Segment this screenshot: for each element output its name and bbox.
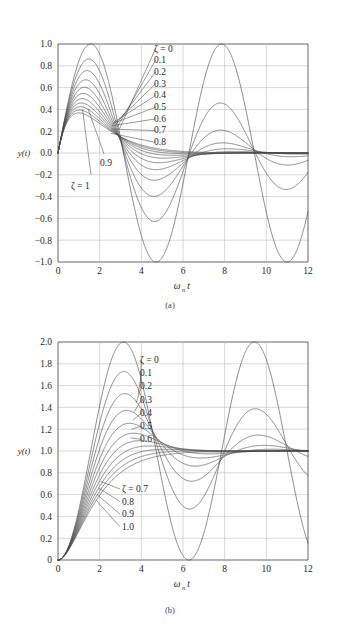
- figure-b-svg: 2.01.81.61.41.21.00.80.60.40.20024681012…: [0, 322, 340, 602]
- y-axis-tick-label: 1.6: [40, 381, 52, 391]
- x-axis-tick-label: 10: [262, 266, 272, 276]
- figure-b: 2.01.81.61.41.21.00.80.60.40.20024681012…: [0, 322, 340, 622]
- y-axis-title: y(t): [17, 148, 31, 158]
- figure-b-caption: (b): [0, 605, 340, 615]
- x-axis-title-t: t: [187, 579, 190, 589]
- curve-annotation-4: 0.4: [140, 408, 152, 418]
- y-axis-tick-label: 1.0: [40, 39, 52, 49]
- figure-b-plot: 2.01.81.61.41.21.00.80.60.40.20024681012…: [0, 322, 340, 602]
- x-axis-title: ωnt: [174, 579, 191, 591]
- y-axis-tick-label: 1.4: [40, 403, 52, 413]
- curve-annotation-zeta-1: ζ = 1: [71, 181, 90, 192]
- y-axis-tick-label: 0.6: [40, 490, 52, 500]
- x-axis-tick-label: 6: [181, 564, 186, 574]
- y-axis-tick-label: 0.6: [40, 83, 52, 93]
- curve-annotation-0: ζ = 0: [140, 355, 159, 366]
- y-axis-tick-label: 2.0: [40, 337, 52, 347]
- x-axis-tick-label: 4: [139, 564, 144, 574]
- curve-annotation-low-3: 1.0: [122, 522, 134, 532]
- y-axis-title: y(t): [17, 446, 31, 456]
- y-axis-tick-label: 0.8: [40, 61, 52, 71]
- x-axis-tick-label: 12: [303, 266, 313, 276]
- x-axis-tick-label: 12: [303, 564, 313, 574]
- curve-annotation-0.1: 0.1: [154, 55, 166, 65]
- curve-annotation-0.8-leader-line: [111, 133, 156, 142]
- figure-a: 1.00.80.60.40.20.0−0.2−0.4−0.6−0.8−1.002…: [0, 26, 340, 316]
- y-axis-tick-label: 0: [47, 555, 52, 565]
- x-axis-title-omega: ω: [174, 281, 181, 291]
- x-axis-title-omega: ω: [174, 579, 181, 589]
- figure-a-plot: 1.00.80.60.40.20.0−0.2−0.4−0.6−0.8−1.002…: [0, 26, 340, 296]
- x-axis-tick-label: 10: [262, 564, 272, 574]
- y-axis-tick-label: −0.4: [35, 192, 52, 202]
- y-axis-tick-label: −0.8: [35, 236, 52, 246]
- y-axis-tick-label: 0.4: [40, 512, 52, 522]
- curve-annotation-0.9-leader-line: [88, 109, 104, 154]
- y-axis-tick-label: 1.2: [40, 425, 52, 435]
- y-axis-tick-label: −0.6: [35, 214, 52, 224]
- x-axis-tick-label: 0: [56, 266, 61, 276]
- curve-annotation-0.4: 0.4: [154, 90, 166, 100]
- curve-annotation-0.1-leader-line: [117, 60, 155, 126]
- curve-annotation-0.2: 0.2: [154, 67, 166, 77]
- curve-annotation-0: ζ = 0: [154, 44, 173, 55]
- y-axis-tick-label: 1.8: [40, 359, 52, 369]
- x-axis-tick-label: 2: [97, 564, 102, 574]
- figure-page: 1.00.80.60.40.20.0−0.2−0.4−0.6−0.8−1.002…: [0, 0, 340, 627]
- curve-annotation-0.8: 0.8: [154, 137, 166, 147]
- curve-annotation-0.6: 0.6: [154, 114, 166, 124]
- x-axis-tick-label: 8: [222, 266, 227, 276]
- y-axis-tick-label: −0.2: [35, 170, 52, 180]
- x-axis-title: ωnt: [174, 281, 191, 293]
- curve-annotation-0.3: 0.3: [154, 79, 166, 89]
- curve-annotation-0.5: 0.5: [154, 102, 166, 112]
- y-axis-tick-label: −1.0: [35, 257, 52, 267]
- y-axis-tick-label: 0.8: [40, 468, 52, 478]
- curve-annotation-1: 0.1: [140, 368, 152, 378]
- curve-annotation-2: 0.2: [140, 381, 152, 391]
- y-axis-tick-label: 0.2: [40, 534, 52, 544]
- y-axis-tick-label: 0.4: [40, 105, 52, 115]
- curve-annotation-0.4-leader-line: [113, 96, 155, 123]
- x-axis-tick-label: 0: [56, 564, 61, 574]
- y-axis-tick-label: 0.0: [40, 148, 52, 158]
- curve-annotation-3: 0.3: [140, 395, 152, 405]
- curve-annotation-low-2-leader-line: [97, 495, 120, 515]
- y-axis-tick-label: 0.2: [40, 127, 52, 137]
- figure-a-caption: (a): [0, 300, 340, 310]
- x-axis-tick-label: 4: [139, 266, 144, 276]
- x-axis-title-subscript: n: [182, 286, 185, 293]
- x-axis-tick-label: 8: [222, 564, 227, 574]
- x-axis-tick-label: 2: [97, 266, 102, 276]
- curve-annotation-low-2: 0.9: [122, 509, 134, 519]
- curve-annotation-zeta-1-leader-line: [83, 109, 91, 175]
- curve-annotation-0.7: 0.7: [154, 125, 166, 135]
- figure-a-svg: 1.00.80.60.40.20.0−0.2−0.4−0.6−0.8−1.002…: [0, 26, 340, 296]
- y-axis-tick-label: 1.0: [40, 446, 52, 456]
- curve-annotation-5: 0.5: [140, 421, 152, 431]
- x-axis-title-subscript: n: [182, 584, 185, 591]
- x-axis-tick-label: 6: [181, 266, 186, 276]
- curve-annotation-low-1: 0.8: [122, 497, 134, 507]
- x-axis-title-t: t: [187, 281, 190, 291]
- curve-annotation-6: 0.6: [140, 434, 152, 444]
- curve-annotation-low-0: ζ = 0.7: [122, 484, 148, 495]
- curve-annotation-0.9: 0.9: [100, 158, 112, 168]
